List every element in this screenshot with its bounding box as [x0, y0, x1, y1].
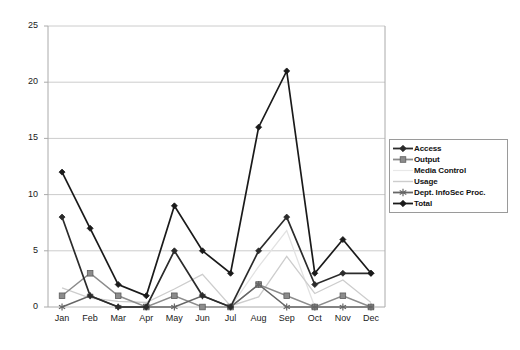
- data-point-square: [200, 304, 206, 310]
- y-tick-label: 20: [12, 76, 38, 86]
- y-tick-label: 0: [12, 301, 38, 311]
- legend-item-label: Dept. InfoSec Proc.: [414, 187, 485, 198]
- legend-item-label: Media Control: [414, 165, 466, 176]
- plot-frame: [44, 26, 385, 307]
- legend-item-output[interactable]: Output: [392, 154, 504, 165]
- legend-item-label: Total: [414, 198, 432, 209]
- data-point-diamond: [143, 293, 149, 299]
- data-point-diamond: [312, 282, 318, 288]
- data-point-diamond: [115, 282, 121, 288]
- legend-item-access[interactable]: Access: [392, 143, 504, 154]
- series-line: [62, 231, 371, 307]
- data-point-square: [284, 293, 290, 299]
- data-series: [59, 68, 374, 311]
- data-point-square: [400, 157, 406, 163]
- y-tick-label: 5: [12, 245, 38, 255]
- legend-marker-square-icon: [392, 154, 414, 165]
- data-point-diamond: [115, 304, 121, 310]
- data-point-square: [59, 293, 65, 299]
- data-point-diamond: [59, 169, 65, 175]
- gridlines: [48, 26, 385, 251]
- data-point-diamond: [284, 68, 290, 74]
- legend-marker-asterisk-icon: [392, 187, 414, 198]
- legend-item-label: Output: [414, 154, 440, 165]
- legend-item-total[interactable]: Total: [392, 198, 504, 209]
- line-chart: 0510152025 JanFebMarAprMayJunJulAugSepOc…: [0, 0, 520, 350]
- series-line: [62, 71, 371, 296]
- chart-legend: AccessOutputMedia ControlUsageDept. Info…: [389, 139, 508, 213]
- y-tick-label: 25: [12, 20, 38, 30]
- data-point-diamond: [400, 200, 406, 206]
- data-point-diamond: [59, 214, 65, 220]
- data-point-diamond: [340, 270, 346, 276]
- legend-item-dept-infosec-proc[interactable]: Dept. InfoSec Proc.: [392, 187, 504, 198]
- legend-item-usage[interactable]: Usage: [392, 176, 504, 187]
- legend-item-label: Access: [414, 143, 441, 154]
- legend-marker-line-icon: [392, 165, 414, 176]
- data-point-square: [87, 270, 93, 276]
- series-total: [59, 68, 374, 299]
- data-point-square: [172, 293, 178, 299]
- legend-marker-diamond-icon: [392, 198, 414, 209]
- data-point-diamond: [87, 225, 93, 231]
- legend-item-label: Usage: [414, 176, 438, 187]
- legend-item-media-control[interactable]: Media Control: [392, 165, 504, 176]
- x-tick-label: Dec: [354, 313, 388, 323]
- y-tick-label: 10: [12, 189, 38, 199]
- legend-marker-diamond-icon: [392, 143, 414, 154]
- y-tick-label: 15: [12, 132, 38, 142]
- data-point-diamond: [256, 124, 262, 130]
- legend-marker-line-icon: [392, 176, 414, 187]
- data-point-diamond: [400, 145, 406, 151]
- data-point-square: [340, 293, 346, 299]
- data-point-square: [115, 293, 121, 299]
- series-media-control: [62, 231, 371, 307]
